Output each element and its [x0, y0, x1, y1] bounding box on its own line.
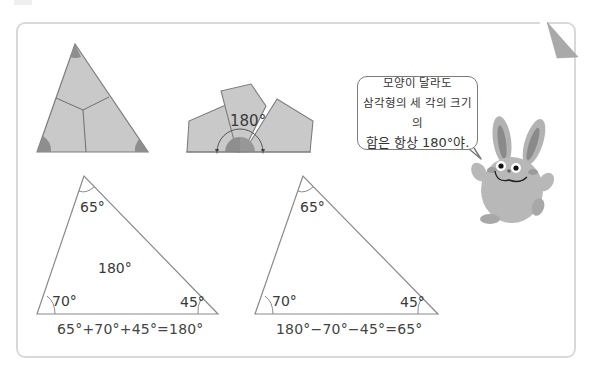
triangle-left-angle-right: 45°: [180, 294, 205, 310]
speech-line-3-value: 180°: [422, 135, 453, 150]
triangle-left-center-label: 180°: [98, 260, 132, 276]
rabbit-mascot-icon: [468, 115, 558, 224]
assembled-angle-label: 180°: [230, 112, 266, 130]
equation-left: 65°+70°+45°=180°: [57, 321, 204, 337]
equation-right: 180°−70°−45°=65°: [276, 321, 423, 337]
triangle-left-angle-top: 65°: [80, 199, 105, 215]
speech-line-1: 모양이 달라도: [383, 73, 453, 93]
speech-line-3-suffix: 야.: [453, 135, 469, 150]
torn-triangle-diagram: [37, 44, 148, 152]
triangle-right-angle-left: 70°: [272, 293, 297, 309]
diagrams-layer: 180° 65° 70° 45° 180° 65° 70° 45°: [0, 0, 594, 371]
speech-bubble: 모양이 달라도 삼각형의 세 각의 크기의 합은 항상 180°야.: [357, 76, 478, 150]
speech-line-2: 삼각형의 세 각의 크기의: [358, 93, 477, 133]
triangle-left-angle-left: 70°: [52, 293, 77, 309]
triangle-right-angle-top: 65°: [300, 199, 325, 215]
triangle-right-angle-right: 45°: [400, 294, 425, 310]
speech-line-3: 합은 항상 180°야.: [366, 133, 470, 153]
speech-line-3-prefix: 합은 항상: [366, 135, 422, 150]
